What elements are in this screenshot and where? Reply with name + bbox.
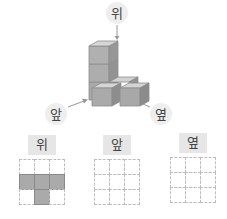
grid-cell[interactable]: [170, 172, 186, 188]
grid-cell[interactable]: [170, 157, 186, 173]
grid-cell[interactable]: [185, 157, 201, 173]
grid-cell[interactable]: [109, 189, 125, 205]
grid-cell[interactable]: [49, 189, 65, 205]
grid-cell[interactable]: [49, 159, 65, 175]
grid-cell[interactable]: [185, 172, 201, 188]
grid-cell[interactable]: [200, 187, 216, 203]
grid-cell[interactable]: [94, 159, 110, 175]
grid-cell[interactable]: [19, 159, 35, 175]
grid-cell[interactable]: [170, 187, 186, 203]
view-label-side: 옆: [179, 133, 207, 153]
grid-cell[interactable]: [109, 174, 125, 190]
grid-cell[interactable]: [19, 189, 35, 205]
grid-cell[interactable]: [124, 159, 140, 175]
grid-cell[interactable]: [200, 157, 216, 173]
grid-cell-filled[interactable]: [34, 174, 50, 190]
grid-cell[interactable]: [109, 159, 125, 175]
view-label-front: 앞: [103, 135, 131, 155]
grid-cell[interactable]: [124, 189, 140, 205]
grid-cell[interactable]: [200, 172, 216, 188]
side-direction-label: 옆: [150, 103, 172, 125]
grid-cell[interactable]: [94, 174, 110, 190]
view-front: 앞: [94, 135, 140, 204]
view-label-top: 위: [28, 135, 56, 155]
grid-front: [94, 159, 140, 204]
grid-cell-filled[interactable]: [19, 174, 35, 190]
grid-cell-filled[interactable]: [34, 189, 50, 205]
grid-side: [170, 157, 216, 202]
view-side: 옆: [170, 133, 216, 202]
grid-cell[interactable]: [185, 187, 201, 203]
grid-cell[interactable]: [124, 174, 140, 190]
grid-cell[interactable]: [34, 159, 50, 175]
grid-cell[interactable]: [94, 189, 110, 205]
cube-stack-icon: [0, 0, 227, 125]
view-top: 위: [19, 135, 65, 204]
grid-cell-filled[interactable]: [49, 174, 65, 190]
grid-top: [19, 159, 65, 204]
cube-figure: 위: [0, 0, 227, 125]
front-direction-label: 앞: [45, 103, 67, 125]
